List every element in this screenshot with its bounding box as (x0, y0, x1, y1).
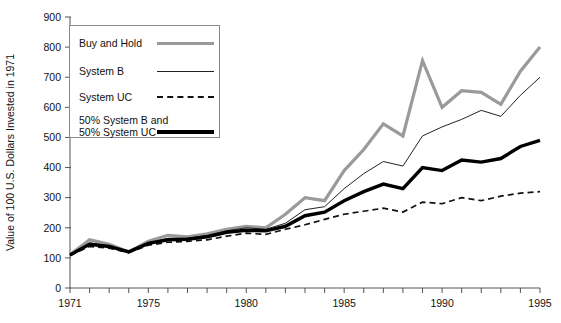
x-tick-label: 1990 (430, 297, 454, 309)
legend-label-system-b: System B (79, 65, 124, 77)
legend-item-blend-line2: 50% System UC (79, 126, 217, 138)
y-tick-label: 200 (43, 222, 61, 234)
x-axis: 197119751980198519901995 (58, 288, 552, 309)
x-tick-label: 1980 (235, 297, 259, 309)
y-axis: 0100200300400500600700800900 (43, 11, 71, 294)
y-tick-label: 900 (43, 11, 61, 23)
y-tick-label: 300 (43, 191, 61, 203)
legend-swatch-buy-and-hold (157, 42, 214, 45)
y-tick-label: 0 (55, 282, 61, 294)
y-axis-title: Value of 100 U.S. Dollars Invested in 19… (4, 54, 16, 251)
legend-swatch-system-b (157, 71, 214, 72)
legend-item-system-b: System B (79, 65, 217, 77)
x-tick-label: 1985 (332, 297, 356, 309)
y-tick-label: 100 (43, 252, 61, 264)
y-tick-label: 400 (43, 161, 61, 173)
legend-label-blend-line2: 50% System UC (79, 126, 156, 138)
y-tick-label: 600 (43, 101, 61, 113)
legend-swatch-system-uc (157, 96, 214, 98)
y-tick-label: 500 (43, 131, 61, 143)
legend-label-system-uc: System UC (79, 91, 132, 103)
y-tick-label: 800 (43, 41, 61, 53)
x-tick-label: 1995 (528, 297, 552, 309)
legend-swatch-blend (157, 130, 214, 134)
x-tick-label: 1971 (58, 297, 82, 309)
chart-legend: Buy and Hold System B System UC 50% Syst… (69, 25, 220, 138)
legend-item-system-uc: System UC (79, 91, 217, 103)
x-tick-label: 1975 (137, 297, 161, 309)
legend-item-blend-line1: 50% System B and (79, 114, 217, 126)
y-axis-title-text: Value of 100 U.S. Dollars Invested in 19… (4, 54, 16, 251)
legend-label-buy-and-hold: Buy and Hold (79, 37, 142, 49)
chart-container: 0100200300400500600700800900 19711975198… (0, 0, 561, 323)
y-tick-label: 700 (43, 71, 61, 83)
legend-item-buy-and-hold: Buy and Hold (79, 37, 217, 49)
legend-label-blend-line1: 50% System B and (79, 114, 168, 126)
